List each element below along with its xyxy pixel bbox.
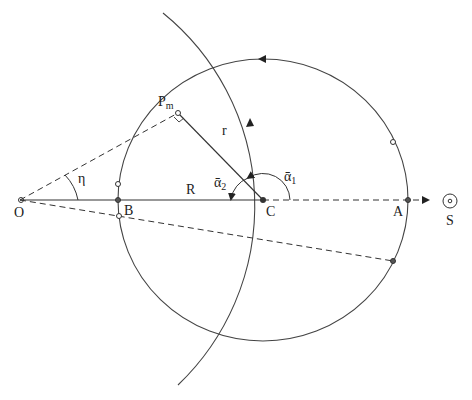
point-A	[406, 198, 411, 203]
label-C: C	[266, 205, 275, 219]
sun-symbol-outer	[443, 194, 457, 208]
label-eta: η	[78, 172, 85, 186]
circle-direction-arrow	[258, 55, 266, 63]
label-r: r	[222, 124, 227, 138]
label-O: O	[14, 206, 24, 220]
eta-arc	[65, 175, 78, 200]
label-R: R	[186, 183, 195, 197]
point-C	[260, 197, 266, 203]
arc-direction-arrow	[246, 118, 254, 127]
point-upper-right	[391, 140, 396, 145]
point-B-lower	[117, 214, 122, 219]
alpha2-arc	[231, 178, 248, 199]
dashed-tangent-upper	[20, 113, 178, 200]
diagram: O B C A S R r η Pm ᾱ1 ᾱ2	[0, 0, 472, 400]
point-Pm	[176, 111, 181, 116]
point-lower-right	[391, 259, 396, 264]
label-B: B	[124, 204, 133, 218]
label-alpha2: ᾱ2	[214, 176, 226, 192]
sun-symbol-inner	[448, 199, 452, 203]
dashed-tangent-lower	[20, 200, 393, 261]
label-A: A	[393, 205, 403, 219]
point-B-upper	[116, 182, 121, 187]
label-alpha1: ᾱ1	[284, 170, 296, 186]
label-Pm: Pm	[158, 95, 174, 111]
point-B	[116, 198, 121, 203]
label-S: S	[446, 214, 454, 228]
diagram-graphics	[0, 0, 472, 400]
